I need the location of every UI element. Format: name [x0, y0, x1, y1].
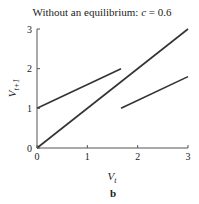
y-tick-label: 2 [27, 63, 32, 74]
series-line-3 [121, 77, 188, 109]
chart-title: Without an equilibrium: c = 0.6 [33, 6, 172, 18]
chart: Without an equilibrium: c = 0.6 01230123… [0, 0, 199, 204]
x-tick-label: 1 [85, 151, 90, 162]
y-tick-label: 0 [27, 143, 32, 154]
x-tick-label: 2 [135, 151, 140, 162]
x-tick-label: 3 [186, 151, 191, 162]
y-tick-label: 1 [27, 103, 32, 114]
x-axis-label: Vt [108, 170, 118, 185]
series-group [37, 29, 188, 148]
series-line-1 [37, 29, 188, 148]
x-tick-label: 0 [35, 151, 40, 162]
panel-label: b [110, 187, 116, 199]
y-axis-label: Vt+1 [6, 79, 21, 97]
series-line-2 [37, 69, 121, 109]
ticks: 01230123 [27, 24, 191, 163]
y-tick-label: 3 [27, 24, 32, 35]
